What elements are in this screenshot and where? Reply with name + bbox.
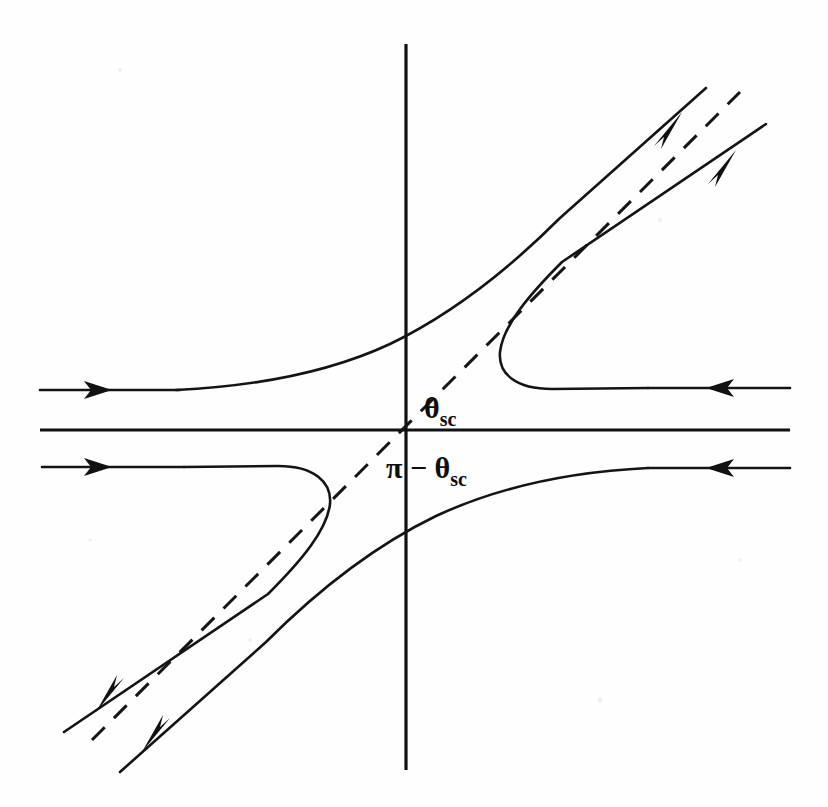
- theta-sc-symbol: θ: [424, 391, 440, 424]
- pi-minus-theta-subscript: sc: [450, 468, 467, 490]
- diagram-background: [0, 0, 828, 807]
- figure-root: θsc π − θsc: [0, 0, 828, 807]
- scattering-diagram: θsc π − θsc: [0, 0, 828, 807]
- pi-minus-theta-symbol: θ: [435, 451, 451, 484]
- theta-sc-subscript: sc: [440, 408, 457, 430]
- pi-minus-prefix: π −: [386, 451, 435, 484]
